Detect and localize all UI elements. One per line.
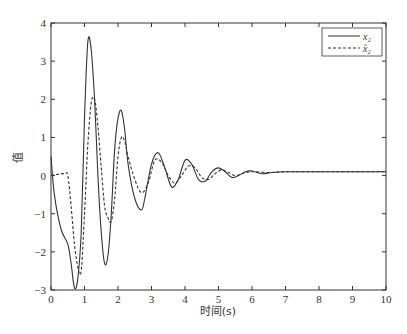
x-tick-label: 2 [115, 293, 121, 305]
y-tick-label: 0 [41, 170, 47, 182]
x-tick-label: 9 [350, 293, 356, 305]
x-tick-label: 8 [316, 293, 322, 305]
x-tick-label: 5 [216, 293, 222, 305]
y-tick-label: −2 [34, 246, 46, 258]
y-axis-label: 值 [12, 152, 25, 163]
x-tick-label: 6 [249, 293, 255, 305]
x-tick-label: 0 [48, 293, 54, 305]
y-tick-label: 3 [41, 55, 47, 67]
plot-border [51, 23, 386, 290]
data-series [51, 37, 386, 289]
legend-label-x2-hat: x̂₂ [362, 43, 371, 54]
legend: x₂ x̂₂ [322, 28, 382, 56]
x-tick-label: 4 [182, 293, 188, 305]
x-tick-label: 3 [149, 293, 155, 305]
legend-label-x2: x₂ [362, 31, 371, 42]
y-tick-label: −3 [34, 284, 46, 296]
x-tick-label: 7 [283, 293, 289, 305]
y-tick-label: −1 [34, 208, 46, 220]
x-tick-label: 1 [82, 293, 88, 305]
line-chart: 012345678910 −3−2−101234 时间(s) 值 x₂ x̂₂ [0, 0, 407, 334]
x-axis-label: 时间(s) [200, 305, 236, 318]
y-tick-label: 1 [41, 131, 47, 143]
x-tick-label: 10 [381, 293, 393, 305]
x-axis-ticks: 012345678910 [48, 23, 392, 305]
plot-frame [51, 23, 386, 290]
series-x2_hat [51, 97, 386, 275]
y-tick-label: 4 [41, 17, 47, 29]
y-tick-label: 2 [41, 93, 47, 105]
legend-box [322, 28, 382, 56]
